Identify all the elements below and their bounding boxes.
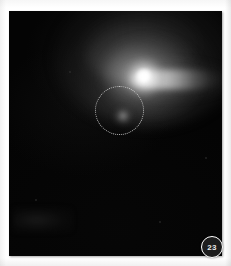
astronomical-figure: [9, 11, 222, 256]
faint-speck: [69, 71, 71, 73]
page-number-badge: 23: [201, 236, 223, 258]
faint-lower-left-smudge: [13, 207, 73, 233]
faint-speck: [205, 157, 207, 159]
bright-core: [136, 69, 152, 85]
faint-speck: [159, 221, 161, 223]
dashed-circle-marker: [95, 86, 144, 135]
page: 23: [0, 0, 231, 266]
faint-speck: [35, 199, 37, 201]
